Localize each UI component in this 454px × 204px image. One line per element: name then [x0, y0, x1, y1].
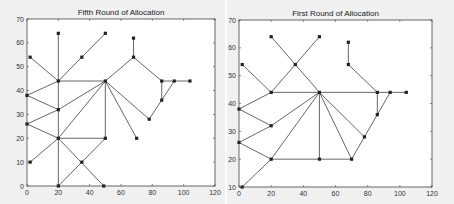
- x-tick-label: 40: [86, 189, 94, 196]
- x-tick-label: 60: [117, 189, 125, 196]
- graph-node: [389, 91, 392, 94]
- x-tick-label: 100: [394, 190, 406, 197]
- graph-node: [347, 41, 350, 44]
- graph-node: [376, 91, 379, 94]
- graph-node: [270, 158, 273, 161]
- graph-node: [270, 124, 273, 127]
- x-tick-label: 0: [237, 190, 241, 197]
- graph-node: [104, 79, 107, 82]
- graph-node: [57, 184, 60, 187]
- x-tick-label: 100: [178, 189, 190, 196]
- graph-node: [102, 184, 105, 187]
- y-tick-label: 60: [228, 44, 236, 51]
- y-tick-label: 30: [228, 128, 236, 135]
- y-tick-label: 60: [16, 39, 24, 46]
- graph-node: [57, 32, 60, 35]
- graph-node: [135, 137, 138, 140]
- graph-node: [104, 137, 107, 140]
- graph-node: [241, 185, 244, 188]
- chart-first-round: First Round of Allocation020406080100120…: [227, 0, 454, 204]
- graph-node: [188, 79, 191, 82]
- graph-node: [173, 79, 176, 82]
- x-tick-label: 120: [426, 190, 438, 197]
- chart-title: First Round of Allocation: [292, 9, 379, 18]
- graph-node: [318, 91, 321, 94]
- graph-node: [57, 79, 60, 82]
- x-tick-label: 80: [364, 190, 372, 197]
- y-tick-label: 30: [16, 111, 24, 118]
- graph-node: [57, 108, 60, 111]
- y-tick-label: 20: [228, 156, 236, 163]
- chart-fifth-round: Fifth Round of Allocation020406080100120…: [0, 0, 225, 204]
- y-tick-label: 10: [16, 159, 24, 166]
- graph-node: [25, 122, 28, 125]
- graph-node: [318, 35, 321, 38]
- chart-title: Fifth Round of Allocation: [78, 8, 165, 17]
- y-tick-label: 20: [16, 135, 24, 142]
- graph-node: [148, 118, 151, 121]
- y-tick-label: 50: [16, 63, 24, 70]
- graph-node: [132, 36, 135, 39]
- plot-fifth-round: Fifth Round of Allocation020406080100120…: [0, 0, 225, 204]
- graph-node: [104, 32, 107, 35]
- graph-node: [270, 91, 273, 94]
- graph-node: [350, 158, 353, 161]
- graph-node: [294, 63, 297, 66]
- y-tick-label: 40: [16, 87, 24, 94]
- graph-node: [318, 158, 321, 161]
- x-tick-label: 20: [54, 189, 62, 196]
- graph-node: [405, 91, 408, 94]
- plot-first-round: First Round of Allocation020406080100120…: [227, 0, 454, 204]
- x-tick-label: 20: [267, 190, 275, 197]
- graph-node: [25, 94, 28, 97]
- x-tick-label: 60: [332, 190, 340, 197]
- y-tick-label: 10: [228, 184, 236, 191]
- y-tick-label: 70: [228, 17, 236, 24]
- x-tick-label: 0: [25, 189, 29, 196]
- graph-node: [237, 107, 240, 110]
- x-tick-label: 40: [299, 190, 307, 197]
- graph-node: [80, 56, 83, 59]
- graph-node: [29, 161, 32, 164]
- x-tick-label: 120: [209, 189, 221, 196]
- graph-node: [57, 137, 60, 140]
- graph-node: [160, 79, 163, 82]
- graph-node: [376, 113, 379, 116]
- y-tick-label: 50: [228, 72, 236, 79]
- graph-node: [237, 141, 240, 144]
- graph-node: [241, 63, 244, 66]
- graph-node: [29, 56, 32, 59]
- y-tick-label: 0: [20, 183, 24, 190]
- graph-node: [80, 161, 83, 164]
- y-tick-label: 40: [228, 100, 236, 107]
- graph-node: [160, 99, 163, 102]
- y-tick-label: 70: [16, 16, 24, 23]
- graph-node: [270, 35, 273, 38]
- x-tick-label: 80: [148, 189, 156, 196]
- plot-area: [27, 19, 215, 186]
- graph-node: [347, 63, 350, 66]
- graph-node: [132, 56, 135, 59]
- graph-node: [363, 135, 366, 138]
